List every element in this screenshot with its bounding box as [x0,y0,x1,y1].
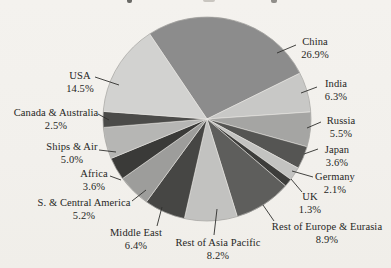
leader-line-germany [292,171,313,177]
leader-line-uk [291,179,302,192]
pie-chart-svg [0,0,391,268]
leader-line-africa [110,176,121,180]
leader-line-rest-of-europe-eurasia [263,205,274,221]
pie-chart-figure: China26.9%India6.3%Russia5.5%Japan3.6%Ge… [0,0,391,268]
